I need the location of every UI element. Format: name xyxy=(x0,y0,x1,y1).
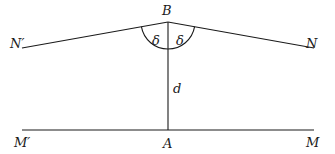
label-b: B xyxy=(161,3,172,18)
label-distance-d: d xyxy=(173,81,181,96)
line-b-n xyxy=(168,22,314,48)
label-delta-right: δ xyxy=(176,33,184,48)
label-delta-left: δ xyxy=(152,33,160,48)
line-n-prime-b xyxy=(22,22,168,48)
label-m: M xyxy=(305,135,320,150)
label-n-prime: N′ xyxy=(9,36,24,51)
label-n: N xyxy=(305,36,318,51)
label-a: A xyxy=(162,136,172,151)
geometry-diagram: B N′ N M′ A M δ δ d xyxy=(0,0,335,154)
label-m-prime: M′ xyxy=(13,135,30,150)
